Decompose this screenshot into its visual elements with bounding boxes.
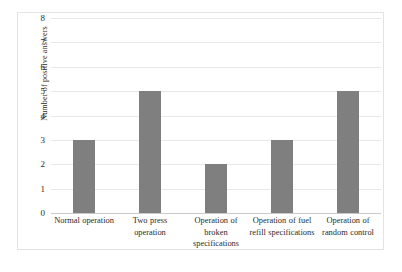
bar xyxy=(205,164,227,213)
bar xyxy=(139,91,161,213)
x-axis-category-label: Operation of broken specifications xyxy=(183,215,249,250)
y-axis-tick-label: 8 xyxy=(41,14,46,23)
bar xyxy=(73,140,95,213)
y-axis-tick-label: 6 xyxy=(41,62,46,71)
bar xyxy=(337,91,359,213)
y-axis-tick-label: 0 xyxy=(41,209,46,218)
y-axis-tick-label: 3 xyxy=(41,135,46,144)
x-axis-baseline xyxy=(51,213,381,214)
chart-frame: Number of positive answers 876543210 Nor… xyxy=(17,12,384,250)
x-axis-category-label: Operation of random control xyxy=(315,215,381,238)
x-axis-category-label: Normal operation xyxy=(51,215,117,227)
x-axis-category-label: Two press operation xyxy=(117,215,183,238)
x-axis-category-label: Operation of fuel refill specifications xyxy=(249,215,315,238)
y-axis-tick-label: 2 xyxy=(41,160,46,169)
y-axis-tick-label: 5 xyxy=(41,87,46,96)
bar-chart-figure: Number of positive answers 876543210 Nor… xyxy=(0,0,402,272)
bars-group xyxy=(51,18,381,213)
bar xyxy=(271,140,293,213)
y-axis-tick-label: 1 xyxy=(41,184,46,193)
x-axis-category-labels: Normal operationTwo press operationOpera… xyxy=(51,215,381,259)
plot-area: 876543210 xyxy=(51,18,381,213)
y-axis-tick-label: 4 xyxy=(41,111,46,120)
y-axis-tick-label: 7 xyxy=(41,38,46,47)
